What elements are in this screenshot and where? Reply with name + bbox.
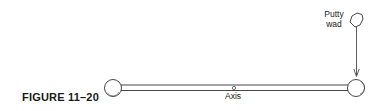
axis-label: Axis	[225, 91, 241, 101]
arrow-down-icon	[354, 27, 359, 77]
putty-label-line2: wad	[320, 19, 348, 29]
pivot-icon	[232, 86, 235, 89]
putty-wad-icon	[350, 13, 363, 27]
left-sphere	[105, 80, 122, 97]
right-sphere	[348, 80, 365, 97]
putty-wad-label: Putty wad	[320, 9, 348, 29]
putty-label-line1: Putty	[320, 9, 348, 19]
figure-caption: FIGURE 11–20	[22, 91, 99, 103]
